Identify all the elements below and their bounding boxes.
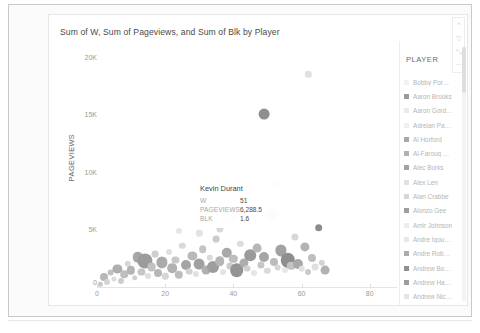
legend-item[interactable]: Al Horford — [404, 132, 464, 146]
y-tick-label: 0 — [63, 279, 97, 286]
bubble-point[interactable] — [257, 261, 264, 268]
bubble-point[interactable] — [176, 228, 182, 234]
x-tick-mark — [302, 284, 303, 287]
legend-item[interactable]: Andrew Wi… — [404, 304, 464, 306]
legend-item[interactable]: Andre Rob… — [404, 247, 464, 261]
legend-item[interactable]: Bobby Por… — [404, 75, 464, 89]
bubble-point[interactable] — [305, 71, 311, 77]
bubble-series[interactable] — [97, 41, 397, 287]
bubble-point[interactable] — [132, 275, 138, 281]
bubble-point[interactable] — [193, 271, 199, 277]
legend-title: PLAYER — [406, 55, 438, 64]
legend-item[interactable]: Aaron Brooks — [404, 89, 464, 103]
legend-item-label: Andrew Ha… — [413, 279, 451, 286]
x-tick-mark — [370, 284, 371, 287]
tooltip-row: PAGEVIEWS6,288.5 — [200, 205, 276, 214]
legend-swatch — [404, 251, 409, 256]
x-tick-mark — [97, 284, 98, 287]
legend-swatch — [404, 151, 409, 156]
bubble-point[interactable] — [127, 266, 135, 274]
expand-icon[interactable]: ⌃ — [454, 21, 463, 30]
tooltip-row: W51 — [200, 196, 276, 205]
bubble-point[interactable] — [315, 224, 323, 232]
visual-title: Sum of W, Sum of Pageviews, and Sum of B… — [60, 27, 280, 37]
y-axis-ticks: 5K10K15K20K0 — [63, 41, 97, 287]
bubble-point[interactable] — [196, 230, 202, 236]
legend-swatch — [404, 280, 409, 285]
plot-area[interactable]: PAGEVIEWS ⌄ 5K10K15K20K0 020406080 W ⌄ K… — [49, 41, 401, 306]
tooltip-value: 6,288.5 — [240, 205, 262, 214]
legend-item[interactable]: Alex Len — [404, 175, 464, 189]
bubble-point[interactable] — [166, 249, 172, 255]
legend[interactable]: PLAYER Bobby Por…Aaron BrooksAaron Gord…… — [399, 41, 467, 306]
bubble-point[interactable] — [253, 244, 262, 253]
bubble-point[interactable] — [220, 269, 226, 275]
legend-item-label: Andre Igou… — [413, 236, 451, 243]
bubble-point[interactable] — [199, 245, 207, 253]
tooltip-value: 1.6 — [240, 214, 249, 223]
bubble-point[interactable] — [298, 265, 304, 271]
legend-item[interactable]: Amir Johnson — [404, 218, 464, 232]
legend-item-label: Al-Farouq … — [413, 150, 449, 157]
legend-swatch — [404, 266, 409, 271]
legend-item-label: Alex Len — [413, 179, 438, 186]
y-tick-label: 5K — [63, 226, 97, 233]
bubble-point[interactable] — [229, 255, 237, 263]
bubble-point[interactable] — [111, 276, 116, 281]
bubble-point[interactable] — [145, 273, 151, 279]
legend-item[interactable]: Andre Igou… — [404, 232, 464, 246]
bubble-point[interactable] — [264, 268, 270, 274]
bubble-point[interactable] — [274, 264, 281, 271]
tooltip-key: W — [200, 196, 240, 205]
bubble-point[interactable] — [321, 265, 330, 274]
legend-swatch — [404, 165, 409, 170]
bubble-point[interactable] — [215, 256, 225, 266]
bubble-point[interactable] — [237, 240, 243, 246]
legend-item[interactable]: Aaron Gord… — [404, 104, 464, 118]
legend-item[interactable]: Adreian Pa… — [404, 118, 464, 132]
bubble-point[interactable] — [172, 256, 179, 263]
x-tick-mark — [233, 284, 234, 287]
bubble-point[interactable] — [162, 273, 168, 279]
legend-swatch — [404, 137, 409, 142]
bubble-point[interactable] — [244, 265, 251, 272]
bubble-point[interactable] — [118, 278, 124, 284]
bubble-point[interactable] — [259, 252, 269, 262]
legend-item-label: Andre Rob… — [413, 250, 450, 257]
legend-items[interactable]: Bobby Por…Aaron BrooksAaron Gord…Adreian… — [404, 75, 464, 306]
legend-item-label: Bobby Por… — [413, 79, 449, 86]
bubble-point[interactable] — [259, 109, 270, 120]
bubble-point[interactable] — [308, 254, 316, 262]
bubble-point[interactable] — [186, 268, 193, 275]
legend-item-label: Amir Johnson — [413, 222, 452, 229]
bubble-point[interactable] — [156, 257, 167, 268]
bubble-point[interactable] — [312, 264, 319, 271]
bubble-point[interactable] — [300, 242, 309, 251]
bubble-point[interactable] — [305, 269, 311, 275]
bubble-point[interactable] — [98, 282, 102, 286]
legend-scrollbar-thumb[interactable] — [462, 47, 466, 93]
legend-item[interactable]: Andrew Bo… — [404, 261, 464, 275]
bubble-point[interactable] — [138, 269, 145, 276]
legend-item[interactable]: Al-Farouq … — [404, 146, 464, 160]
legend-swatch — [404, 237, 409, 242]
legend-item-label: Al Horford — [413, 136, 442, 143]
bubble-point[interactable] — [291, 233, 298, 240]
legend-item[interactable]: Alec Burks — [404, 161, 464, 175]
bubble-point[interactable] — [175, 271, 183, 279]
legend-item[interactable]: Alonzo Gee — [404, 204, 464, 218]
bubble-point[interactable] — [282, 267, 288, 273]
bubble-point[interactable] — [251, 270, 257, 276]
bubble-point[interactable] — [104, 279, 110, 285]
bubble-point[interactable] — [213, 236, 220, 243]
legend-item[interactable]: Andrew Ha… — [404, 275, 464, 289]
x-tick-label: 40 — [229, 290, 237, 297]
legend-swatch — [404, 194, 409, 199]
legend-item-label: Aaron Brooks — [413, 93, 452, 100]
legend-item[interactable]: Alan Crabbe — [404, 189, 464, 203]
legend-item[interactable]: Andrew Nic… — [404, 289, 464, 303]
bubble-point[interactable] — [152, 250, 159, 257]
tooltip-key: BLK — [200, 214, 240, 223]
bubble-point[interactable] — [179, 243, 185, 249]
x-tick-label: 80 — [366, 290, 374, 297]
